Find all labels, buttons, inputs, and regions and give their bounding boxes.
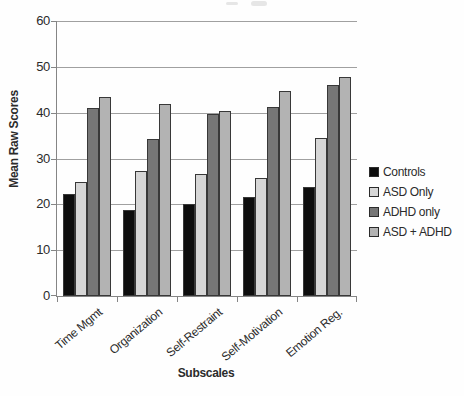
x-tick-mark [177, 297, 178, 302]
gridline [57, 21, 357, 22]
y-tick-label: 40 [28, 105, 50, 120]
legend-item: ASD Only [369, 182, 452, 202]
legend-label: ASD Only [383, 185, 433, 199]
x-tick-mark [117, 297, 118, 302]
bar [243, 197, 255, 296]
scan-artifact [251, 1, 267, 6]
legend-swatch [369, 187, 379, 197]
legend-swatch [369, 207, 379, 217]
legend: ControlsASD OnlyADHD onlyASD + ADHD [369, 162, 452, 242]
y-tick-label: 0 [28, 288, 50, 303]
bar [219, 111, 231, 296]
legend-item: Controls [369, 162, 452, 182]
bar [99, 97, 111, 296]
bar [279, 91, 291, 296]
bar [207, 114, 219, 296]
legend-label: Controls [383, 165, 425, 179]
bar [303, 187, 315, 296]
x-tick-mark [237, 297, 238, 302]
bar [63, 194, 75, 296]
bar [339, 77, 351, 296]
legend-item: ADHD only [369, 202, 452, 222]
y-tick-mark [51, 159, 56, 160]
y-tick-mark [51, 250, 56, 251]
bar [159, 104, 171, 296]
bar [327, 85, 339, 296]
y-tick-label: 30 [28, 151, 50, 166]
y-axis-title: Mean Raw Scores [7, 59, 21, 219]
legend-swatch [369, 167, 379, 177]
bar [87, 108, 99, 296]
y-tick-label: 60 [28, 13, 50, 28]
bar [147, 139, 159, 296]
gridline [57, 67, 357, 68]
x-tick-label: Time Mgmt [0, 305, 105, 396]
y-tick-label: 20 [28, 196, 50, 211]
legend-item: ASD + ADHD [369, 222, 452, 242]
bar [255, 178, 267, 296]
x-axis-title: Subscales [56, 366, 356, 380]
bar [267, 107, 279, 296]
legend-swatch [369, 227, 379, 237]
bar [135, 171, 147, 296]
y-tick-mark [51, 21, 56, 22]
bar [123, 210, 135, 296]
bar [315, 138, 327, 296]
y-tick-mark [51, 295, 56, 296]
bar [183, 204, 195, 296]
x-tick-mark [356, 297, 357, 302]
y-tick-label: 10 [28, 242, 50, 257]
x-tick-mark [57, 297, 58, 302]
y-tick-label: 50 [28, 59, 50, 74]
legend-label: ADHD only [383, 205, 440, 219]
bar [75, 182, 87, 296]
x-tick-mark [297, 297, 298, 302]
bar [195, 174, 207, 296]
scan-artifact [226, 2, 238, 5]
y-tick-mark [51, 204, 56, 205]
y-tick-mark [51, 113, 56, 114]
bar-chart-figure: Mean Raw Scores 0102030405060Time MgmtOr… [0, 0, 464, 396]
y-tick-mark [51, 67, 56, 68]
plot-area: 0102030405060Time MgmtOrganizationSelf-R… [56, 21, 357, 297]
legend-label: ASD + ADHD [383, 225, 452, 239]
